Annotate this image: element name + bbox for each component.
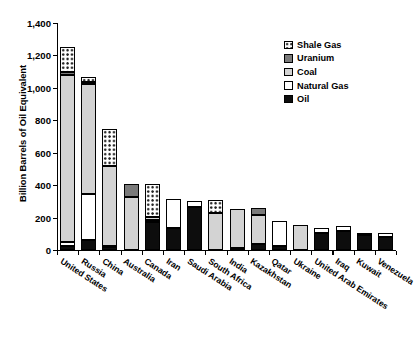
legend-item-uranium: Uranium bbox=[284, 52, 349, 66]
bar-iran bbox=[166, 23, 181, 250]
bar-segment-natural-gas bbox=[81, 194, 96, 240]
bar-segment-oil bbox=[357, 235, 372, 250]
bar-segment-natural-gas bbox=[187, 201, 202, 207]
y-axis-tick-mark bbox=[53, 218, 58, 219]
bar-segment-oil bbox=[187, 207, 202, 250]
bar-kuwait bbox=[357, 23, 372, 250]
bar-segment-natural-gas bbox=[272, 221, 287, 246]
bar-segment-oil bbox=[166, 228, 181, 250]
bar-segment-natural-gas bbox=[102, 246, 117, 248]
y-axis-tick-label: 1,200 bbox=[27, 50, 51, 61]
y-axis-tick-mark bbox=[53, 153, 58, 154]
legend-item-shale-gas: Shale Gas bbox=[284, 38, 349, 52]
x-axis-tick-mark bbox=[99, 251, 100, 255]
bar-china bbox=[102, 23, 117, 250]
x-axis-tick-mark bbox=[227, 251, 228, 255]
bar-segment-oil bbox=[81, 240, 96, 250]
legend-swatch-icon bbox=[284, 41, 293, 50]
bar-united-states bbox=[60, 23, 75, 250]
x-axis-tick-mark bbox=[396, 251, 397, 255]
x-axis-tick-mark bbox=[354, 251, 355, 255]
bar-segment-coal bbox=[124, 197, 139, 250]
bar-segment-uranium bbox=[60, 72, 75, 75]
y-axis-tick-label: 600 bbox=[35, 147, 51, 158]
x-axis-tick-mark bbox=[163, 251, 164, 255]
bar-segment-shale-gas bbox=[102, 129, 117, 166]
bar-segment-uranium bbox=[81, 82, 96, 84]
y-axis-tick-label: 400 bbox=[35, 180, 51, 191]
bar-saudi-arabia bbox=[187, 23, 202, 250]
bar-segment-natural-gas bbox=[357, 233, 372, 235]
legend-item-label: Shale Gas bbox=[297, 40, 341, 50]
bar-russia bbox=[81, 23, 96, 250]
legend-item-label: Coal bbox=[297, 67, 317, 77]
legend-swatch-icon bbox=[284, 95, 293, 104]
bar-venezuela bbox=[378, 23, 393, 250]
bar-segment-natural-gas bbox=[314, 228, 329, 233]
bar-segment-natural-gas bbox=[378, 233, 393, 237]
bar-south-africa bbox=[208, 23, 223, 250]
bar-segment-coal bbox=[81, 84, 96, 193]
x-axis-tick-mark bbox=[375, 251, 376, 255]
y-axis-tick-label: 800 bbox=[35, 115, 51, 126]
bar-segment-natural-gas bbox=[336, 226, 351, 230]
legend-item-label: Oil bbox=[297, 94, 309, 104]
bar-segment-oil bbox=[145, 222, 160, 250]
x-axis-tick-mark bbox=[57, 251, 58, 255]
bar-segment-coal bbox=[293, 225, 308, 250]
bar-segment-coal bbox=[230, 209, 245, 248]
y-axis-tick-label: 200 bbox=[35, 212, 51, 223]
bar-segment-natural-gas bbox=[166, 199, 181, 228]
x-axis-tick-mark bbox=[121, 251, 122, 255]
legend-swatch-icon bbox=[284, 54, 293, 63]
bar-segment-coal bbox=[251, 215, 266, 244]
bar-segment-shale-gas bbox=[81, 77, 96, 82]
y-axis-tick-label: 1,400 bbox=[27, 18, 51, 29]
chart-legend: Shale GasUraniumCoalNatural GasOil bbox=[284, 38, 349, 106]
bar-segment-shale-gas bbox=[145, 184, 160, 217]
bar-segment-coal bbox=[145, 217, 160, 219]
x-axis-tick-mark bbox=[248, 251, 249, 255]
legend-swatch-icon bbox=[284, 81, 293, 90]
legend-item-coal: Coal bbox=[284, 65, 349, 79]
x-axis-tick-mark bbox=[269, 251, 270, 255]
bar-segment-uranium bbox=[124, 184, 139, 198]
y-axis-tick-mark bbox=[53, 23, 58, 24]
y-axis-tick-label: 0 bbox=[46, 245, 51, 256]
y-axis-tick-mark bbox=[53, 185, 58, 186]
bar-segment-coal bbox=[208, 213, 223, 250]
legend-item-oil: Oil bbox=[284, 92, 349, 106]
x-axis-tick-mark bbox=[332, 251, 333, 255]
bar-segment-oil bbox=[314, 233, 329, 250]
bar-india bbox=[230, 23, 245, 250]
bar-segment-coal bbox=[102, 166, 117, 245]
x-axis-tick-mark bbox=[142, 251, 143, 255]
legend-item-label: Uranium bbox=[297, 53, 334, 63]
legend-item-label: Natural Gas bbox=[297, 81, 349, 91]
bar-segment-natural-gas bbox=[145, 220, 160, 222]
y-axis-tick-label: 1,000 bbox=[27, 82, 51, 93]
bar-segment-shale-gas bbox=[60, 47, 75, 73]
y-axis-tick-mark bbox=[53, 88, 58, 89]
bar-segment-coal bbox=[60, 75, 75, 242]
x-axis-tick-mark bbox=[205, 251, 206, 255]
bar-segment-oil bbox=[336, 231, 351, 250]
bar-segment-oil bbox=[378, 237, 393, 250]
bar-canada bbox=[145, 23, 160, 250]
legend-item-natural-gas: Natural Gas bbox=[284, 79, 349, 93]
bar-segment-natural-gas bbox=[60, 242, 75, 246]
x-axis-tick-mark bbox=[290, 251, 291, 255]
bar-kazakhstan bbox=[251, 23, 266, 250]
y-axis-tick-labels: 02004006008001,0001,2001,400 bbox=[0, 0, 51, 340]
x-axis-tick-mark bbox=[78, 251, 79, 255]
x-axis-tick-mark bbox=[311, 251, 312, 255]
bar-segment-uranium bbox=[251, 208, 266, 215]
legend-swatch-icon bbox=[284, 68, 293, 77]
y-axis-tick-mark bbox=[53, 55, 58, 56]
bar-segment-shale-gas bbox=[208, 200, 223, 213]
bar-australia bbox=[124, 23, 139, 250]
x-axis-tick-mark bbox=[184, 251, 185, 255]
y-axis-tick-mark bbox=[53, 120, 58, 121]
